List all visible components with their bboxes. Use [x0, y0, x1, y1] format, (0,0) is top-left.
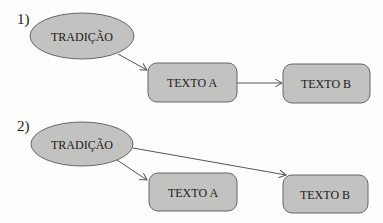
tradicao-label: TRADIÇÃO — [51, 30, 113, 44]
arrow-tradicao-to-b — [133, 148, 286, 175]
texto-b-label: TEXTO B — [300, 188, 350, 202]
texto-b-label: TEXTO B — [301, 77, 351, 91]
texto-a-label: TEXTO A — [167, 76, 217, 90]
arrow-tradicao-to-a — [117, 160, 147, 180]
diagram-number: 2) — [17, 118, 30, 135]
diagram-1: 1) TRADIÇÃO TEXTO A TEXTO B — [17, 11, 370, 103]
texto-a-label: TEXTO A — [168, 186, 218, 200]
tradicao-label: TRADIÇÃO — [51, 138, 113, 152]
arrow-tradicao-to-a — [118, 54, 147, 70]
diagram-canvas: 1) TRADIÇÃO TEXTO A TEXTO B 2) TRADIÇÃO … — [0, 0, 383, 223]
diagram-2: 2) TRADIÇÃO TEXTO A TEXTO B — [17, 118, 368, 213]
diagram-number: 1) — [17, 11, 30, 28]
